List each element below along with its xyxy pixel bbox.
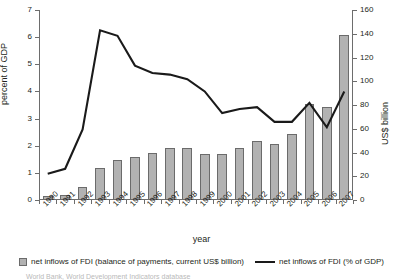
y-axis-left-tick-label: 1 xyxy=(28,169,32,177)
y-axis-right-tick xyxy=(353,10,357,11)
legend-item-line: net inflows of FDI (% of GDP) xyxy=(255,257,384,266)
y-axis-right-tick xyxy=(353,58,357,59)
y-axis-right-tick-label: 20 xyxy=(360,172,369,180)
y-axis-right-tick xyxy=(353,81,357,82)
y-axis-right-tick xyxy=(353,153,357,154)
y-axis-right-tick xyxy=(353,105,357,106)
y-axis-left-title: percent of GDP xyxy=(0,43,9,105)
y-axis-right-tick-label: 0 xyxy=(360,196,364,204)
y-axis-right-tick-label: 80 xyxy=(360,101,369,109)
x-axis-title: year xyxy=(0,234,403,244)
y-axis-right-tick-label: 140 xyxy=(360,30,373,38)
y-axis-left-tick-label: 4 xyxy=(28,87,32,95)
y-axis-left-tick-label: 6 xyxy=(28,33,32,41)
y-axis-right-tick xyxy=(353,176,357,177)
line-swatch-icon xyxy=(255,261,275,263)
chart-figure: percent of GDP US$ billion 01234567 0204… xyxy=(0,0,403,280)
y-axis-left-tick-label: 5 xyxy=(28,60,32,68)
y-axis-right-tick-label: 160 xyxy=(360,6,373,14)
plot-area: 01234567 020406080100120140160 xyxy=(39,10,353,200)
legend-item-line-label: net inflows of FDI (% of GDP) xyxy=(279,257,384,266)
line-series-path xyxy=(48,30,345,173)
y-axis-right-tick xyxy=(353,129,357,130)
y-axis-right-tick-label: 120 xyxy=(360,54,373,62)
y-axis-left-tick-label: 2 xyxy=(28,142,32,150)
y-axis-right-tick xyxy=(353,34,357,35)
y-axis-right-title: US$ billion xyxy=(380,102,390,145)
y-axis-right-tick-label: 60 xyxy=(360,125,369,133)
line-series xyxy=(39,10,353,200)
source-note: World Bank, World Development Indicators… xyxy=(26,273,190,280)
y-axis-left-tick-label: 7 xyxy=(28,6,32,14)
x-axis-tick xyxy=(353,200,354,204)
bar-swatch-icon xyxy=(19,258,27,266)
chart-legend: net inflows of FDI (balance of payments,… xyxy=(0,255,403,268)
legend-item-bar-label: net inflows of FDI (balance of payments,… xyxy=(31,257,244,266)
y-axis-left-tick-label: 3 xyxy=(28,115,32,123)
y-axis-right-tick-label: 40 xyxy=(360,149,369,157)
x-axis-tick-labels: 1990199119921993199419951996199719981999… xyxy=(39,202,353,232)
y-axis-left-tick-label: 0 xyxy=(28,196,32,204)
legend-item-bar: net inflows of FDI (balance of payments,… xyxy=(19,257,244,266)
y-axis-right-tick-label: 100 xyxy=(360,77,373,85)
